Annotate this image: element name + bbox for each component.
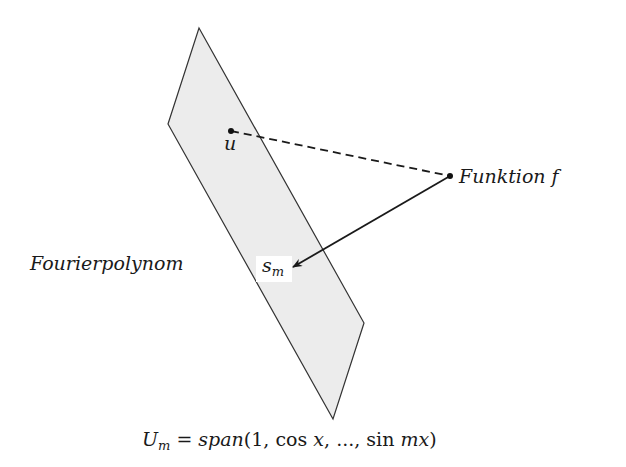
funktion-var: f [552,165,559,187]
point-f [447,173,453,179]
caption-mx: mx [394,428,429,450]
caption-subspace: Um = span(1, cos x, ..., sin mx) [142,430,437,452]
caption-sin: sin [366,428,394,450]
caption-span: span [198,428,243,450]
caption-eq: = [176,428,192,450]
label-fourierpolynom: Fourierpolynom [30,254,183,273]
subspace-plane [168,28,364,419]
s-sub: m [272,264,284,279]
caption-U: U [142,428,158,450]
caption-sub: m [158,438,170,453]
label-funktion-f: Funktion f [459,167,559,186]
funktion-word: Funktion [459,165,546,187]
projection-arrow [293,176,450,267]
s-base: s [262,254,272,276]
label-u: u [224,134,236,153]
caption-open: (1, [244,428,276,450]
caption-cos: cos [275,428,307,450]
caption-mid: , ..., [324,428,366,450]
diagram-canvas [0,0,626,467]
caption-x: x [307,428,324,450]
caption-close: ) [429,428,436,450]
label-s-m: sm [262,256,284,278]
